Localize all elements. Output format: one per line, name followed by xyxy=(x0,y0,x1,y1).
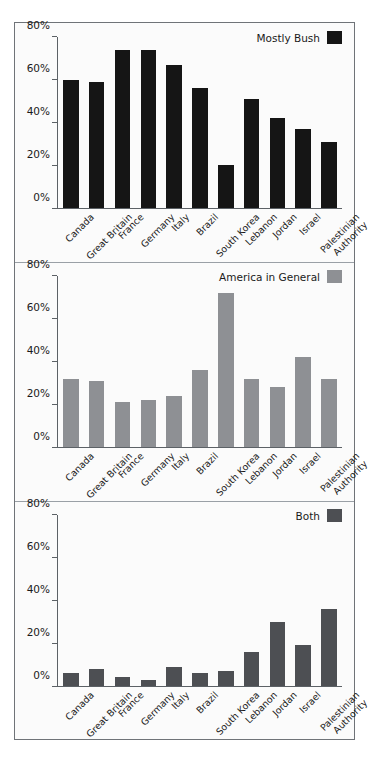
y-axis-tick-label: 20% xyxy=(27,148,50,160)
x-axis-line xyxy=(57,447,342,448)
bar-slot xyxy=(84,276,110,447)
plot-area: 0%20%40%60%80% xyxy=(57,515,342,687)
x-axis-label-slot: Lebanon xyxy=(239,688,265,750)
bar-slot xyxy=(239,515,265,686)
y-axis-tick xyxy=(52,514,57,515)
bar-slot xyxy=(161,515,187,686)
y-axis-tick-label: 80% xyxy=(27,19,50,31)
bar xyxy=(89,82,104,208)
x-axis-label: PalestinianAuthority xyxy=(319,212,369,263)
bar xyxy=(166,65,181,208)
chart-panel-1: Mostly Bush0%20%40%60%80%CanadaGreat Bri… xyxy=(15,23,354,262)
bar-slot xyxy=(135,276,161,447)
bar xyxy=(115,677,130,686)
bar xyxy=(244,379,259,447)
x-axis-line xyxy=(57,208,342,209)
y-axis-tick xyxy=(52,275,57,276)
bar xyxy=(321,379,336,447)
bar xyxy=(218,293,233,447)
bar-slot xyxy=(110,515,136,686)
bar xyxy=(321,142,336,208)
x-axis-label-slot: Italy xyxy=(161,688,187,750)
bar xyxy=(295,645,310,686)
bar-slot xyxy=(84,515,110,686)
y-axis-tick xyxy=(52,600,57,601)
bar-slot xyxy=(58,515,84,686)
x-axis-label-slot: Great Britain xyxy=(84,688,110,750)
y-axis-tick-label: 20% xyxy=(27,387,50,399)
bar-slot xyxy=(316,515,342,686)
bar xyxy=(244,99,259,208)
y-axis-tick xyxy=(52,36,57,37)
x-axis-label-slot: Brazil xyxy=(187,688,213,750)
bar-slot xyxy=(213,37,239,208)
y-axis-tick xyxy=(52,404,57,405)
bar-slot xyxy=(161,37,187,208)
y-axis-tick-label: 0% xyxy=(33,669,50,681)
y-axis-tick-label: 60% xyxy=(27,540,50,552)
bar xyxy=(166,396,181,447)
bar-slot xyxy=(161,276,187,447)
y-axis-tick xyxy=(52,361,57,362)
bar-slot xyxy=(213,276,239,447)
bar xyxy=(270,387,285,447)
y-axis-tick-label: 0% xyxy=(33,430,50,442)
bar-slot xyxy=(239,37,265,208)
bar-slot xyxy=(265,276,291,447)
bar-slot xyxy=(187,276,213,447)
bar-slot xyxy=(213,515,239,686)
y-axis-tick-label: 80% xyxy=(27,497,50,509)
y-axis-tick xyxy=(52,79,57,80)
x-axis-label-slot: Israel xyxy=(290,688,316,750)
bar-series xyxy=(58,515,342,686)
y-axis-tick-label: 40% xyxy=(27,583,50,595)
chart-panel-2: America in General0%20%40%60%80%CanadaGr… xyxy=(15,262,354,501)
bar xyxy=(295,357,310,447)
plot-area: 0%20%40%60%80% xyxy=(57,276,342,448)
x-axis-label-slot: PalestinianAuthority xyxy=(316,688,342,750)
x-axis-label: PalestinianAuthority xyxy=(319,690,369,741)
bar xyxy=(63,379,78,447)
bar xyxy=(270,118,285,208)
bar-slot xyxy=(58,276,84,447)
bar xyxy=(321,609,336,686)
bar xyxy=(141,680,156,686)
bar-slot xyxy=(187,515,213,686)
bar xyxy=(244,652,259,686)
bar xyxy=(89,669,104,686)
bar xyxy=(141,400,156,447)
bar xyxy=(192,88,207,208)
y-axis-tick xyxy=(52,165,57,166)
bar xyxy=(218,671,233,686)
bar-slot xyxy=(58,37,84,208)
x-axis-line xyxy=(57,686,342,687)
bar xyxy=(192,370,207,447)
bar xyxy=(270,622,285,686)
y-axis-tick xyxy=(52,557,57,558)
bar-slot xyxy=(110,276,136,447)
bar xyxy=(115,50,130,208)
x-axis-label-slot: Jordan xyxy=(265,688,291,750)
y-axis-tick xyxy=(52,208,57,209)
bar xyxy=(295,129,310,208)
y-axis-tick-label: 60% xyxy=(27,62,50,74)
bar xyxy=(63,80,78,208)
bar-slot xyxy=(187,37,213,208)
x-axis-labels: CanadaGreat BritainFranceGermanyItalyBra… xyxy=(58,688,342,750)
y-axis-tick xyxy=(52,318,57,319)
bar xyxy=(218,165,233,208)
y-axis-tick-label: 0% xyxy=(33,191,50,203)
y-axis-tick xyxy=(52,447,57,448)
bar-slot xyxy=(265,515,291,686)
bar-slot xyxy=(316,276,342,447)
bar-slot xyxy=(290,37,316,208)
bar-slot xyxy=(135,37,161,208)
y-axis-tick-label: 60% xyxy=(27,301,50,313)
bar-slot xyxy=(316,37,342,208)
bar-slot xyxy=(290,276,316,447)
bar-series xyxy=(58,276,342,447)
bar-slot xyxy=(239,276,265,447)
bar xyxy=(115,402,130,447)
bar xyxy=(192,673,207,686)
y-axis-tick-label: 40% xyxy=(27,344,50,356)
